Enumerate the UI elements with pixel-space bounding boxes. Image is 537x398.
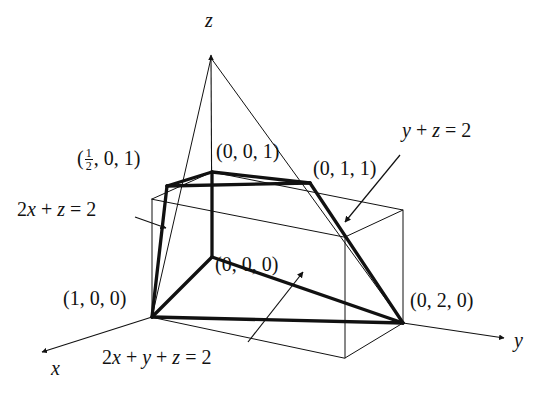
eq-equals-value: = 2: [65, 198, 96, 220]
eq-plus-1: +: [121, 346, 142, 368]
edge-v100-origin: [152, 257, 212, 317]
label-vertex-0-1-1: (0, 1, 1): [313, 158, 376, 178]
label-axis-x: x: [51, 358, 60, 378]
label-vertex-0-0-1: (0, 0, 1): [216, 141, 279, 161]
label-plane-2x-plus-y-plus-z: 2x + y + z = 2: [102, 347, 211, 367]
edge-vhalf01-v011: [167, 183, 310, 186]
label-vertex-1-0-0: (1, 0, 0): [63, 288, 126, 308]
eq-equals-value: = 2: [180, 346, 211, 368]
eq-variable-z: z: [432, 119, 440, 141]
eq-variable-y: y: [402, 119, 411, 141]
eq-plus: +: [36, 198, 57, 220]
paren-open: (: [77, 147, 84, 169]
eq-variable-x: x: [112, 346, 121, 368]
label-vertex-0-2-0: (0, 2, 0): [410, 290, 473, 310]
label-vertex-0-0-0: (0, 0, 0): [215, 254, 278, 274]
box-top-face: [152, 172, 403, 237]
eq-variable-y: y: [142, 346, 151, 368]
label-vertex-half-0-1: (12, 0, 1): [77, 148, 140, 173]
fraction-denominator: 2: [85, 159, 93, 172]
solid-region-outline: [152, 172, 403, 323]
edge-v100-v020: [152, 317, 403, 323]
eq-coefficient: 2: [102, 346, 112, 368]
eq-plus: +: [411, 119, 432, 141]
fraction-one-half: 12: [85, 147, 93, 172]
label-axis-y: y: [514, 330, 523, 350]
eq-plus-2: +: [151, 346, 172, 368]
leader-2x-plus-y-plus-z: [248, 272, 303, 342]
eq-coefficient: 2: [17, 198, 27, 220]
y-axis-line: [403, 323, 504, 338]
edge-vhalf01-v100: [152, 186, 167, 317]
eq-variable-z: z: [172, 346, 180, 368]
label-axis-z: z: [205, 10, 213, 30]
eq-variable-z: z: [57, 198, 65, 220]
figure-canvas: (12, 0, 1) (0, 0, 1) (0, 1, 1) (0, 0, 0)…: [0, 0, 537, 398]
plane-extension-lines: [152, 58, 403, 323]
extension-apex-to-v020: [211, 58, 403, 323]
extension-apex-to-v100: [152, 58, 211, 317]
eq-equals-value: = 2: [440, 119, 471, 141]
label-plane-2x-plus-z: 2x + z = 2: [17, 199, 96, 219]
edge-v011-v020: [310, 183, 403, 323]
coord-rest: , 0, 1): [94, 147, 141, 169]
eq-variable-x: x: [27, 198, 36, 220]
fraction-numerator: 1: [85, 147, 93, 159]
label-plane-y-plus-z: y + z = 2: [402, 120, 471, 140]
